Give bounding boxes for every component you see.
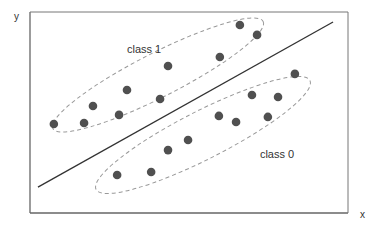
class-0-point — [215, 112, 224, 121]
decision-boundary-line — [38, 22, 333, 187]
class-1-point — [236, 21, 245, 30]
class-0-point — [232, 118, 241, 127]
class-0-point — [264, 113, 273, 122]
class-1-point — [115, 111, 124, 120]
class-0-point — [147, 168, 156, 177]
class-0-point — [164, 146, 173, 155]
class-1-label: class 1 — [127, 43, 161, 55]
class-1-point — [164, 62, 173, 71]
class-1-point — [50, 120, 59, 129]
class-1-point — [123, 86, 132, 95]
y-axis-label: y — [14, 11, 19, 22]
class-0-point — [291, 70, 300, 79]
class-1-point — [80, 119, 89, 128]
x-axis-label: x — [360, 209, 365, 220]
class-0-cluster-outline — [85, 59, 321, 211]
class-0-point — [274, 93, 283, 102]
scatter-chart: y x class 1 class 0 — [0, 0, 381, 228]
class-1-point — [216, 53, 225, 62]
class-0-point — [113, 171, 122, 180]
class-0-point — [248, 91, 257, 100]
class-0-label: class 0 — [260, 148, 294, 160]
class-1-point — [89, 102, 98, 111]
class-0-point — [184, 136, 193, 145]
class-1-point — [156, 95, 165, 104]
class-1-point — [253, 31, 262, 40]
